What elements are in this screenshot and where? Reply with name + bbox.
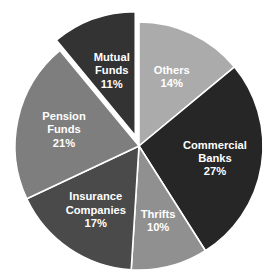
pie-chart: Others14%CommercialBanks27%Thrifts10%Ins… (0, 0, 277, 280)
pie-chart-svg: Others14%CommercialBanks27%Thrifts10%Ins… (0, 0, 277, 280)
